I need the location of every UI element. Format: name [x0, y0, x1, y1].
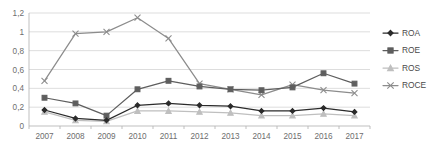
legend-label: ROA	[402, 28, 421, 38]
y-axis-tick-labels: 00,20,40,60,811,2	[13, 9, 25, 131]
x-tick-label: 2016	[314, 132, 333, 141]
legend-label: ROCE	[402, 80, 427, 90]
data-point-marker	[352, 81, 357, 86]
y-tick-label: 1	[19, 28, 24, 37]
y-tick-label: 0,8	[13, 47, 25, 56]
legend-item-ros[interactable]: ROS	[383, 63, 421, 73]
data-point-marker	[197, 109, 202, 114]
x-tick-label: 2009	[97, 132, 116, 141]
data-point-marker	[228, 87, 233, 92]
line-chart: 00,20,40,60,811,2 2007200820092010201120…	[0, 0, 441, 150]
x-tick-label: 2015	[283, 132, 302, 141]
data-point-marker	[228, 110, 233, 115]
x-tick-label: 2014	[252, 132, 271, 141]
data-point-marker	[42, 95, 47, 100]
series-ros	[42, 108, 357, 123]
data-point-marker	[166, 101, 171, 106]
data-point-marker	[321, 106, 326, 111]
chart-canvas: 00,20,40,60,811,2 2007200820092010201120…	[0, 0, 441, 150]
legend-label: ROE	[402, 45, 421, 55]
data-point-marker	[166, 78, 171, 83]
data-point-marker	[259, 109, 264, 114]
legend-item-roe[interactable]: ROE	[383, 45, 421, 55]
data-point-marker	[321, 111, 326, 116]
data-point-marker	[166, 35, 172, 41]
data-point-marker	[135, 108, 140, 113]
legend-item-roa[interactable]: ROA	[383, 28, 421, 38]
data-point-marker	[228, 104, 233, 109]
data-point-marker	[135, 87, 140, 92]
x-tick-label: 2010	[128, 132, 147, 141]
data-point-marker	[321, 71, 326, 76]
x-tick-label: 2011	[160, 132, 178, 141]
x-axis-tick-labels: 2007200820092010201120122013201420152016…	[35, 132, 364, 141]
x-tick-label: 2007	[35, 132, 54, 141]
x-tick-label: 2008	[66, 132, 85, 141]
data-point-marker	[388, 48, 393, 53]
x-tick-label: 2012	[190, 132, 209, 141]
y-tick-label: 0,2	[13, 103, 25, 112]
data-point-marker	[259, 88, 264, 93]
y-tick-label: 0,4	[13, 84, 25, 93]
legend-label: ROS	[402, 63, 421, 73]
x-tick-label: 2013	[221, 132, 240, 141]
chart-legend: ROAROEROSROCE	[383, 28, 427, 91]
y-tick-label: 0	[19, 122, 24, 131]
data-point-marker	[290, 109, 295, 114]
data-point-marker	[388, 65, 394, 71]
y-tick-label: 0,6	[13, 66, 25, 75]
data-point-marker	[352, 109, 357, 114]
data-point-marker	[290, 85, 295, 90]
y-tick-label: 1,2	[13, 9, 25, 18]
legend-item-roce[interactable]: ROCE	[383, 80, 427, 90]
data-point-marker	[388, 30, 393, 35]
data-point-marker	[135, 15, 141, 21]
data-point-marker	[166, 108, 171, 113]
data-point-marker	[197, 84, 202, 89]
data-point-marker	[73, 101, 78, 106]
data-point-marker	[42, 78, 48, 84]
x-tick-label: 2017	[345, 132, 364, 141]
